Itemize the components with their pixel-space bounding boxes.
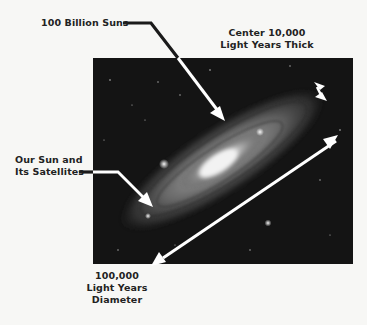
bright-knot <box>145 213 151 219</box>
our-sun-line2: Its Satellites <box>15 166 84 178</box>
billion-suns-text: 100 Billion Suns <box>41 17 129 29</box>
our-sun-line1: Our Sun and <box>15 154 84 166</box>
diameter-line3: Diameter <box>82 294 152 306</box>
diameter-line2: Light Years <box>82 282 152 294</box>
satellite-galaxy <box>265 220 272 227</box>
diameter-line1: 100,000 <box>82 270 152 282</box>
satellite-galaxy <box>159 159 169 169</box>
center-thickness-line2: Light Years Thick <box>220 39 313 51</box>
bright-knot <box>256 128 264 136</box>
diameter-label: 100,000 Light Years Diameter <box>82 270 152 306</box>
center-thickness-line1: Center 10,000 <box>220 27 313 39</box>
center-thickness-label: Center 10,000 Light Years Thick <box>220 27 313 51</box>
billion-suns-label: 100 Billion Suns <box>41 17 129 29</box>
our-sun-label: Our Sun and Its Satellites <box>15 154 84 178</box>
